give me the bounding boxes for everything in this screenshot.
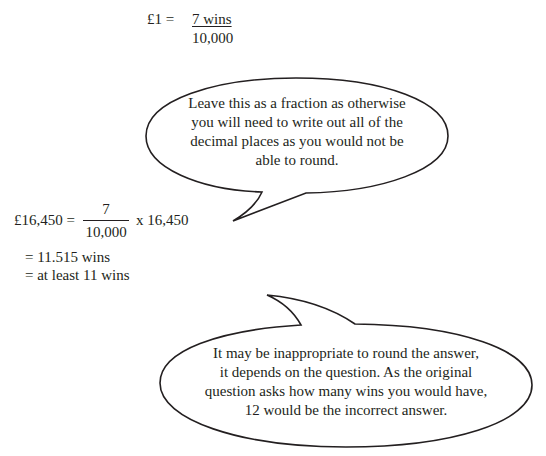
calculation-denominator: 10,000	[83, 223, 129, 241]
callout-line: 12 would be the incorrect answer.	[186, 401, 506, 420]
callout-line: you will need to write out all of the	[156, 113, 438, 132]
calculation-lhs: £16,450 =	[14, 211, 75, 229]
callout-line: It may be inappropriate to round the ans…	[186, 344, 506, 363]
callout-text-fraction: Leave this as a fraction as otherwise yo…	[156, 94, 438, 170]
callout-line: decimal places as you would not be	[156, 132, 438, 151]
calculation-numerator: 7	[83, 200, 129, 218]
rate-equation-lhs: £1 =	[147, 10, 174, 28]
rate-equation-numerator: 7 wins	[192, 10, 232, 28]
calculation-result: = 11.515 wins	[25, 248, 110, 266]
callout-line: question asks how many wins you would ha…	[186, 382, 506, 401]
calculation-conclusion: = at least 11 wins	[25, 266, 130, 284]
callout-text-rounding: It may be inappropriate to round the ans…	[186, 344, 506, 420]
rate-equation-denominator: 10,000	[192, 29, 233, 47]
calculation-multiplier: x 16,450	[136, 211, 189, 229]
callout-line: Leave this as a fraction as otherwise	[156, 94, 438, 113]
callout-line: able to round.	[156, 151, 438, 170]
callout-line: it depends on the question. As the origi…	[186, 363, 506, 382]
fraction-bar	[83, 220, 129, 221]
